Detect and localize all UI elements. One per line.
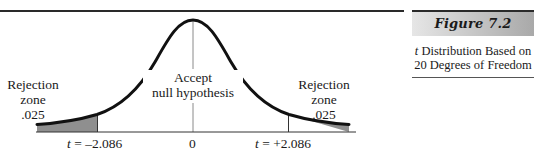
caption-line-2: 20 Degrees of Freedom bbox=[412, 58, 534, 72]
left-zone-word: zone bbox=[4, 92, 62, 107]
left-critical-tick: t = –2.086 bbox=[67, 136, 122, 151]
left-rejection-word: Rejection bbox=[4, 77, 62, 92]
caption-line-1-text: Distribution Based on bbox=[418, 44, 531, 58]
caption-rule bbox=[412, 77, 534, 78]
center-tick: 0 bbox=[189, 136, 196, 151]
left-zone-area: .025 bbox=[4, 107, 62, 122]
center-tick-value: 0 bbox=[189, 136, 196, 151]
left-t-value: = –2.086 bbox=[71, 136, 123, 151]
accept-word: Accept bbox=[143, 70, 243, 85]
right-critical-tick: t = +2.086 bbox=[255, 136, 311, 151]
caption-line-1: t Distribution Based on bbox=[412, 44, 534, 58]
figure-caption: t Distribution Based on 20 Degrees of Fr… bbox=[412, 44, 534, 72]
figure-title: Figure 7.2 bbox=[435, 16, 512, 31]
left-rejection-label: Rejection zone .025 bbox=[4, 77, 62, 122]
accept-null-label: Accept null hypothesis bbox=[143, 70, 243, 100]
figure-header: Figure 7.2 bbox=[412, 10, 534, 36]
null-hypothesis-word: null hypothesis bbox=[143, 85, 243, 100]
right-zone-area: .025 bbox=[295, 107, 353, 122]
right-zone-word: zone bbox=[295, 92, 353, 107]
right-rejection-word: Rejection bbox=[295, 77, 353, 92]
right-t-value: = +2.086 bbox=[259, 136, 311, 151]
right-rejection-label: Rejection zone .025 bbox=[295, 77, 353, 122]
